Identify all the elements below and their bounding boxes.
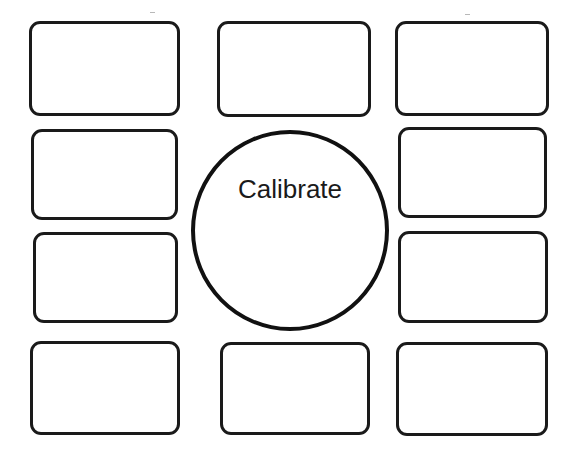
- scan-artifact-1: [150, 12, 155, 13]
- blank-tile-6[interactable]: [33, 232, 178, 323]
- blank-tile-4[interactable]: [31, 129, 178, 220]
- blank-tile-1[interactable]: [29, 21, 180, 116]
- blank-tile-9[interactable]: [220, 342, 370, 435]
- blank-tile-5[interactable]: [398, 127, 547, 218]
- blank-tile-3[interactable]: [395, 21, 549, 116]
- blank-tile-10[interactable]: [396, 342, 548, 436]
- blank-tile-2[interactable]: [217, 21, 371, 117]
- blank-tile-8[interactable]: [30, 341, 180, 435]
- blank-tile-7[interactable]: [398, 231, 548, 323]
- calibrate-button[interactable]: Calibrate: [191, 130, 389, 331]
- scan-artifact-2: [465, 14, 470, 15]
- calibrate-label: Calibrate: [195, 174, 385, 204]
